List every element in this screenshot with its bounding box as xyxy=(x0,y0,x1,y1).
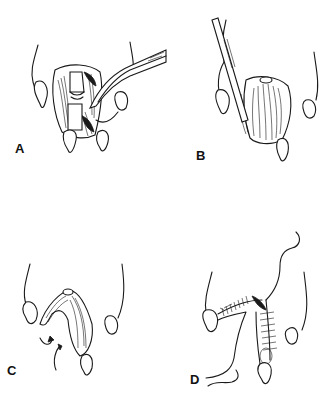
panel-c-illustration xyxy=(0,200,166,400)
panel-label-a: A xyxy=(15,141,24,156)
panel-b-illustration xyxy=(166,0,332,190)
phalanx-bone-upper xyxy=(70,72,84,92)
panel-label-d: D xyxy=(190,372,199,387)
panel-a: A xyxy=(0,0,166,190)
panel-label-c: C xyxy=(7,363,16,378)
sutures-vertical xyxy=(260,312,277,350)
rotation-arrows xyxy=(40,336,62,370)
panel-c: C xyxy=(0,200,166,400)
panel-d: D xyxy=(166,200,332,400)
scalpel-instrument xyxy=(212,18,248,122)
panel-b: B xyxy=(166,0,332,190)
suture-strand-bottom xyxy=(208,370,238,386)
suture-strand-top xyxy=(266,232,299,300)
phalanx-bone-lower xyxy=(68,104,82,130)
panel-d-illustration xyxy=(166,200,332,400)
panel-label-b: B xyxy=(196,148,205,163)
panel-a-illustration xyxy=(0,0,166,190)
